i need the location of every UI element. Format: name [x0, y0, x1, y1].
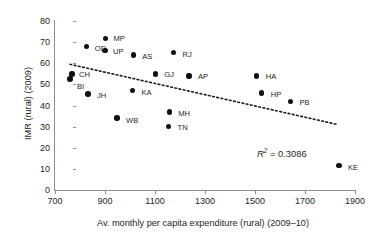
data-point-label: HA [266, 71, 277, 80]
data-point-label: HP [271, 89, 282, 98]
data-point [259, 90, 264, 95]
data-point [166, 124, 171, 129]
data-point [186, 73, 191, 78]
data-point [153, 71, 158, 76]
data-point-label: JH [97, 90, 106, 99]
data-point-label: UP [113, 46, 124, 55]
x-tick-mark [305, 191, 306, 194]
y-tick-label: 10 [24, 164, 50, 174]
data-point-label: RJ [183, 49, 192, 58]
y-tick-label: 60 [24, 58, 50, 68]
r-squared-symbol: R [257, 148, 264, 159]
x-tick-mark [255, 191, 256, 194]
data-point-label: AS [142, 51, 152, 60]
r-squared-annotation: R2 = 0.3086 [257, 147, 307, 159]
scatter-chart: IMR (rural) (2009) 01020304050607080 700… [0, 0, 377, 237]
x-tick-mark [55, 191, 56, 194]
data-point-label: KE [348, 162, 358, 171]
data-point [102, 48, 107, 53]
x-tick-mark [355, 191, 356, 194]
r-squared-value: = 0.3086 [267, 148, 306, 159]
data-point [85, 91, 90, 96]
data-point-label: GJ [164, 69, 174, 78]
x-axis-title: Av. monthly per capita expenditure (rura… [48, 218, 358, 228]
data-point [167, 109, 172, 114]
x-tick-mark [155, 191, 156, 194]
x-tick-label: 1100 [135, 196, 175, 206]
data-point-label: MH [178, 108, 190, 117]
x-tick-label: 1700 [285, 196, 325, 206]
data-point-label: TN [178, 123, 188, 132]
x-tick-mark [105, 191, 106, 194]
x-tick-label: 1900 [335, 196, 375, 206]
y-tick-mark [73, 190, 76, 191]
x-tick-mark [205, 191, 206, 194]
x-tick-label: 1500 [235, 196, 275, 206]
x-tick-label: 1300 [185, 196, 225, 206]
y-tick-label: 30 [24, 122, 50, 132]
y-tick-label: 50 [24, 79, 50, 89]
data-point [131, 52, 136, 57]
data-point-label: KA [142, 87, 152, 96]
data-point-label: PB [300, 98, 310, 107]
y-tick-label: 80 [24, 16, 50, 26]
data-point-label: BI [77, 82, 84, 91]
data-point-label: CH [79, 69, 90, 78]
y-tick-label: 70 [24, 37, 50, 47]
data-point [69, 71, 74, 76]
y-tick-label: 0 [24, 185, 50, 195]
data-point [114, 115, 119, 120]
data-point-label: WB [126, 116, 138, 125]
data-point-label: AP [198, 71, 208, 80]
x-tick-label: 900 [85, 196, 125, 206]
data-point-label: MP [114, 34, 125, 43]
x-tick-label: 700 [35, 196, 75, 206]
y-tick-label: 20 [24, 143, 50, 153]
data-point [67, 76, 72, 81]
y-tick-label: 40 [24, 101, 50, 111]
